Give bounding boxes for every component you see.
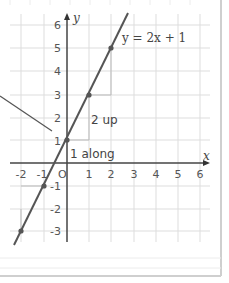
svg-text:-1: -1 bbox=[37, 168, 48, 181]
y-axis-label: y bbox=[72, 11, 80, 25]
svg-text:-2: -2 bbox=[16, 168, 27, 181]
svg-text:5: 5 bbox=[54, 42, 61, 55]
svg-text:1: 1 bbox=[86, 168, 93, 181]
linear-graph: 6 5 4 3 2 1 -1 -2 -3 -2 -1 1 2 3 4 5 6 O… bbox=[0, 0, 229, 283]
svg-text:1: 1 bbox=[54, 135, 61, 148]
x-axis-label: x bbox=[203, 149, 210, 163]
svg-text:2: 2 bbox=[108, 168, 115, 181]
svg-text:-3: -3 bbox=[50, 225, 61, 238]
svg-text:3: 3 bbox=[131, 168, 138, 181]
x-tick-labels: -2 -1 1 2 3 4 5 6 bbox=[16, 168, 204, 181]
svg-text:5: 5 bbox=[175, 168, 182, 181]
svg-text:-1: -1 bbox=[50, 180, 61, 193]
svg-text:3: 3 bbox=[54, 89, 61, 102]
annotation-2-up: 2 up bbox=[91, 113, 118, 127]
origin-label: O bbox=[58, 168, 67, 181]
equation-label: y = 2x + 1 bbox=[121, 31, 186, 45]
annotation-1-along: 1 along bbox=[70, 147, 115, 161]
svg-text:2: 2 bbox=[54, 112, 61, 125]
svg-text:-2: -2 bbox=[50, 203, 61, 216]
svg-text:4: 4 bbox=[54, 65, 61, 78]
svg-text:4: 4 bbox=[153, 168, 160, 181]
svg-text:6: 6 bbox=[197, 168, 204, 181]
svg-text:6: 6 bbox=[54, 19, 61, 32]
